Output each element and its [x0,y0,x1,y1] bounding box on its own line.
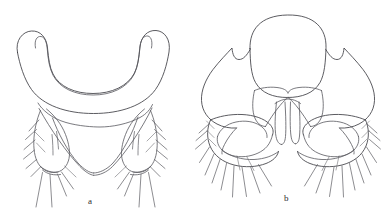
figure-plate: a b [0,0,384,223]
panel-b-drawing [192,0,384,223]
panel-label-b: b [284,194,289,203]
panel-label-a: a [88,197,92,206]
panel-a-drawing [0,0,192,223]
